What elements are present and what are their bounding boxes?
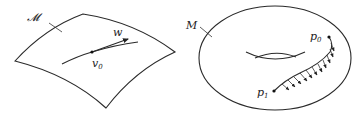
point-label-p0-sub: 0 (317, 36, 322, 44)
torus-figure (199, 6, 351, 110)
point-label-v0: v0 (92, 57, 103, 71)
point-label-p0: p0 (310, 30, 322, 44)
parallel-transport-curve (274, 37, 332, 91)
vector-field (282, 43, 334, 90)
point-v0 (90, 50, 93, 53)
point-label-p1: p1 (257, 86, 269, 100)
diagram-canvas: 𝓜 w v0 M p0 p1 (0, 0, 364, 116)
point-label-p1-sub: 1 (264, 92, 268, 100)
point-label-p1-main: p (257, 86, 264, 99)
point-p0 (327, 35, 330, 38)
surface-label-left: 𝓜 (27, 11, 43, 24)
surface-label-right: M (185, 19, 198, 32)
vector-label-w: w (113, 26, 123, 39)
point-label-v0-sub: 0 (98, 63, 103, 71)
point-label-p0-main: p (310, 30, 317, 43)
curve-through-v0 (62, 42, 138, 64)
point-p1 (272, 89, 275, 92)
tangent-vector-w (92, 39, 128, 52)
